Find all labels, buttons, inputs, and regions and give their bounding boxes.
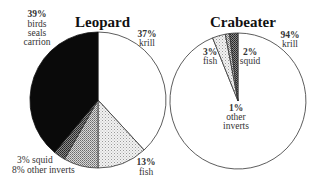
leopard-fish-pct: 13% [137,157,156,167]
crabeater-fish-label: fish [203,56,218,66]
leopard-other-label: 8% other inverts [12,165,75,175]
leopard-birds-pct: 39% [28,9,47,19]
leopard-squid-label: 3% squid [17,155,53,165]
crabeater-title: Crabeater [210,14,276,30]
leopard-birds-label-3: carrion [24,37,51,47]
diet-pie-charts: Leopard 39% birds seals carrion 37% kril… [0,0,325,188]
leopard-fish-label: fish [139,167,154,177]
leopard-krill-label: krill [139,38,155,48]
crabeater-krill-label: krill [282,39,298,49]
crabeater-pie [170,33,306,169]
crabeater-other-label-2: inverts [223,121,249,131]
leopard-pie [30,32,166,168]
leopard-title: Leopard [75,14,131,30]
crabeater-squid-label: squid [240,56,261,66]
